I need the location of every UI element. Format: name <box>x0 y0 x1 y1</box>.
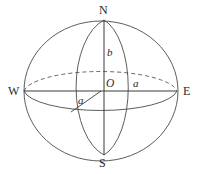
label-semi-major-a-diagonal: a <box>78 95 84 106</box>
label-west-point: W <box>8 85 19 97</box>
label-semi-major-a-right: a <box>133 78 139 89</box>
meridian-back-arc <box>76 20 104 155</box>
label-south-pole: S <box>99 157 106 169</box>
equator-front-solid-arc <box>24 91 177 110</box>
radius-diagonal-line <box>71 91 101 112</box>
equator-back-dashed-arc <box>24 72 177 91</box>
label-east-point: E <box>183 85 190 97</box>
ellipsoid-diagram-canvas <box>0 0 199 174</box>
label-origin-o: O <box>106 78 114 90</box>
label-semi-minor-b: b <box>107 47 113 58</box>
label-north-pole: N <box>99 4 108 16</box>
ellipsoid-figure: N S W E O b a a <box>0 0 199 174</box>
